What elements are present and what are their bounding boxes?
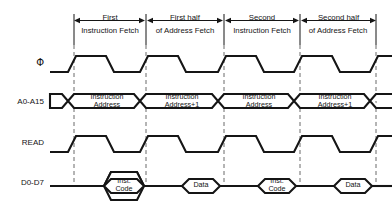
data-bus-packet-3: Data	[338, 181, 368, 189]
timing-diagram: First Instruction Fetch First half of Ad…	[0, 0, 392, 201]
data-bus-packet-1-line1: Data	[186, 181, 216, 189]
signal-label-address-bus: A0-A15	[0, 97, 44, 106]
address-bus-value-2: Instruction Address	[224, 93, 294, 110]
phase-caption-0: First	[74, 13, 146, 23]
phase-caption-3: Second half	[301, 13, 376, 23]
phase-caption-1: First half	[147, 13, 223, 23]
phase-caption-3-line2: of Address Fetch	[309, 26, 368, 35]
data-bus-packet-0: Inst. Code	[106, 177, 142, 194]
data-bus-packet-3-line1: Data	[338, 181, 368, 189]
address-bus-value-1: Instruction Address+1	[146, 93, 218, 110]
address-bus-value-0: Instruction Address	[74, 93, 140, 110]
phase-caption-0-line1: First	[102, 13, 117, 22]
data-bus-packet-2-line2: Code	[260, 185, 294, 193]
phase-caption-0-line2: Instruction Fetch	[81, 26, 139, 35]
data-bus-packet-0-line2: Code	[106, 185, 142, 193]
signal-label-phi: Φ	[0, 57, 44, 68]
address-bus-value-1-line2: Address+1	[146, 101, 218, 109]
address-bus-value-0-line2: Address	[74, 101, 140, 109]
phase-caption-1-line1: First half	[170, 13, 200, 22]
signal-waveform-phi	[50, 56, 392, 72]
address-bus-value-2-line2: Address	[224, 101, 294, 109]
data-bus-packet-1: Data	[186, 181, 216, 189]
phase-caption-2-line2: Instruction Fetch	[233, 26, 291, 35]
phase-caption-1-sub: of Address Fetch	[147, 26, 223, 36]
signal-waveform-read	[50, 136, 392, 152]
phase-caption-3-line1: Second half	[318, 13, 359, 22]
data-bus-packet-2: Inst. Code	[260, 177, 294, 194]
phase-caption-2-sub: Instruction Fetch	[224, 26, 300, 36]
address-bus-value-3-line2: Address+1	[300, 101, 370, 109]
phase-caption-2-line1: Second	[249, 13, 275, 22]
timing-guide-lines	[74, 45, 376, 186]
signal-label-read: READ	[0, 138, 44, 147]
phase-caption-1-line2: of Address Fetch	[156, 26, 215, 35]
phase-caption-0-sub: Instruction Fetch	[72, 26, 148, 36]
address-bus-value-3: Instruction Address+1	[300, 93, 370, 110]
signal-label-data-bus: D0-D7	[0, 178, 44, 187]
phase-caption-3-sub: of Address Fetch	[300, 26, 376, 36]
phase-caption-2: Second	[225, 13, 299, 23]
